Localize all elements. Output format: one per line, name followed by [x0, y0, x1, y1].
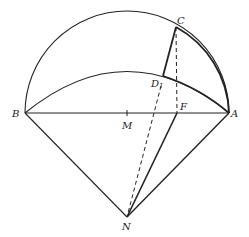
label-M: M: [121, 120, 133, 131]
geometry-diagram: C D1 F B A M N: [0, 0, 249, 237]
segment-AN: [127, 113, 229, 217]
outer-arc: [25, 11, 229, 113]
label-B: B: [11, 108, 19, 119]
segment-CD1: [163, 27, 176, 76]
segment-FN: [127, 113, 177, 217]
label-C: C: [177, 15, 185, 26]
label-D: D1: [150, 78, 164, 90]
segment-CF-dashed: [176, 27, 177, 113]
segment-D1N-dashed: [127, 86, 161, 217]
segment-BN: [25, 113, 127, 217]
label-A: A: [230, 108, 238, 119]
arc-D1A: [163, 76, 229, 113]
label-F: F: [179, 101, 188, 112]
label-N: N: [121, 221, 132, 232]
